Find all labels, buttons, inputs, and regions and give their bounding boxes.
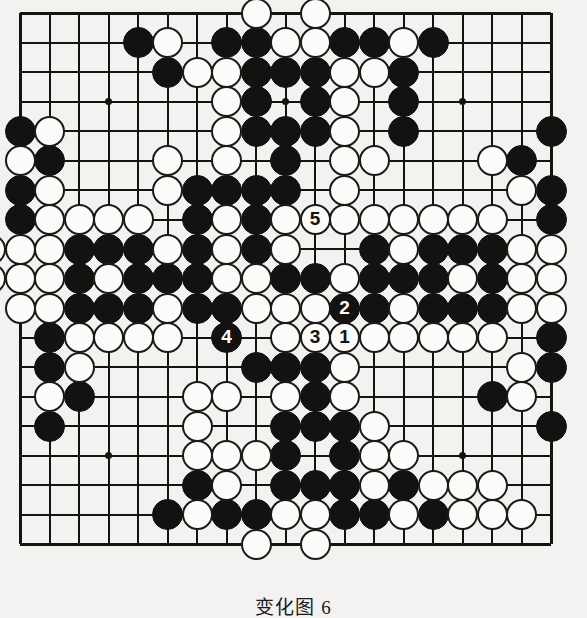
white-stone[interactable]	[152, 145, 183, 176]
black-stone[interactable]	[447, 293, 478, 324]
black-stone[interactable]	[123, 293, 154, 324]
white-stone[interactable]	[5, 145, 36, 176]
black-stone[interactable]	[300, 86, 331, 117]
white-stone[interactable]	[536, 234, 567, 265]
white-stone[interactable]	[300, 0, 331, 29]
move-stone-3[interactable]: 3	[300, 322, 331, 353]
white-stone[interactable]	[477, 145, 508, 176]
white-stone[interactable]	[477, 499, 508, 530]
white-stone[interactable]	[506, 499, 537, 530]
white-stone[interactable]	[359, 440, 390, 471]
white-stone[interactable]	[211, 204, 242, 235]
black-stone[interactable]	[359, 27, 390, 58]
black-stone[interactable]	[300, 57, 331, 88]
black-stone[interactable]	[270, 175, 301, 206]
white-stone[interactable]	[152, 27, 183, 58]
white-stone[interactable]	[241, 263, 272, 294]
black-stone[interactable]	[34, 411, 65, 442]
white-stone[interactable]	[388, 204, 419, 235]
white-stone[interactable]	[359, 57, 390, 88]
black-stone[interactable]	[388, 263, 419, 294]
black-stone[interactable]	[123, 27, 154, 58]
white-stone[interactable]	[182, 381, 213, 412]
white-stone[interactable]	[329, 175, 360, 206]
white-stone[interactable]	[506, 293, 537, 324]
black-stone[interactable]	[536, 322, 567, 353]
white-stone[interactable]	[447, 263, 478, 294]
white-stone[interactable]	[329, 116, 360, 147]
black-stone[interactable]	[477, 263, 508, 294]
white-stone[interactable]	[211, 145, 242, 176]
white-stone[interactable]	[329, 57, 360, 88]
black-stone[interactable]	[270, 57, 301, 88]
black-stone[interactable]	[241, 499, 272, 530]
white-stone[interactable]	[536, 263, 567, 294]
black-stone[interactable]	[388, 86, 419, 117]
black-stone[interactable]	[123, 234, 154, 265]
white-stone[interactable]	[241, 529, 272, 560]
black-stone[interactable]	[211, 175, 242, 206]
black-stone[interactable]	[5, 116, 36, 147]
white-stone[interactable]	[34, 116, 65, 147]
white-stone[interactable]	[418, 204, 449, 235]
white-stone[interactable]	[300, 27, 331, 58]
black-stone[interactable]	[152, 57, 183, 88]
white-stone[interactable]	[447, 322, 478, 353]
black-stone[interactable]	[93, 234, 124, 265]
white-stone[interactable]	[182, 440, 213, 471]
black-stone[interactable]	[64, 381, 95, 412]
black-stone[interactable]	[93, 293, 124, 324]
black-stone[interactable]	[182, 234, 213, 265]
black-stone[interactable]	[64, 234, 95, 265]
black-stone[interactable]	[64, 293, 95, 324]
black-stone[interactable]	[300, 263, 331, 294]
black-stone[interactable]	[477, 234, 508, 265]
white-stone[interactable]	[211, 470, 242, 501]
black-stone[interactable]	[270, 411, 301, 442]
black-stone[interactable]	[123, 263, 154, 294]
white-stone[interactable]	[300, 529, 331, 560]
white-stone[interactable]	[211, 57, 242, 88]
black-stone[interactable]	[447, 234, 478, 265]
white-stone[interactable]	[329, 352, 360, 383]
white-stone[interactable]	[5, 263, 36, 294]
white-stone[interactable]	[152, 175, 183, 206]
black-stone[interactable]	[418, 293, 449, 324]
white-stone[interactable]	[388, 322, 419, 353]
black-stone[interactable]	[241, 175, 272, 206]
black-stone[interactable]	[5, 204, 36, 235]
black-stone[interactable]	[329, 499, 360, 530]
black-stone[interactable]	[152, 499, 183, 530]
black-stone[interactable]	[418, 263, 449, 294]
black-stone[interactable]	[359, 499, 390, 530]
black-stone[interactable]	[34, 322, 65, 353]
white-stone[interactable]	[5, 293, 36, 324]
white-stone[interactable]	[152, 322, 183, 353]
black-stone[interactable]	[388, 470, 419, 501]
black-stone[interactable]	[418, 499, 449, 530]
black-stone[interactable]	[182, 175, 213, 206]
black-stone[interactable]	[241, 27, 272, 58]
black-stone[interactable]	[536, 352, 567, 383]
black-stone[interactable]	[270, 145, 301, 176]
white-stone[interactable]	[241, 440, 272, 471]
white-stone[interactable]	[270, 322, 301, 353]
black-stone[interactable]	[359, 234, 390, 265]
black-stone[interactable]	[34, 352, 65, 383]
black-stone[interactable]	[182, 263, 213, 294]
white-stone[interactable]	[359, 411, 390, 442]
move-stone-4[interactable]: 4	[211, 322, 242, 353]
white-stone[interactable]	[418, 470, 449, 501]
black-stone[interactable]	[270, 352, 301, 383]
white-stone[interactable]	[123, 322, 154, 353]
white-stone[interactable]	[270, 293, 301, 324]
white-stone[interactable]	[34, 263, 65, 294]
white-stone[interactable]	[270, 234, 301, 265]
white-stone[interactable]	[359, 204, 390, 235]
white-stone[interactable]	[211, 263, 242, 294]
white-stone[interactable]	[241, 293, 272, 324]
black-stone[interactable]	[300, 352, 331, 383]
white-stone[interactable]	[447, 499, 478, 530]
white-stone[interactable]	[34, 293, 65, 324]
black-stone[interactable]	[388, 116, 419, 147]
